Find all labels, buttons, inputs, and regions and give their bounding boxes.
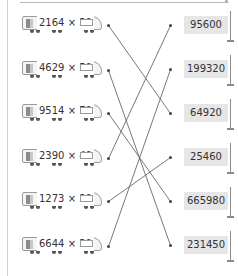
train-wheels-icon [26,118,96,121]
train-wheels-icon [26,75,96,78]
train-window-icon [80,19,93,26]
connection-line [109,158,171,202]
right-connector-dot[interactable] [169,112,172,115]
train-icon: 1273 × 20 [22,192,102,206]
train-card[interactable]: 4629 × 50 [22,61,106,81]
train-window-icon [80,240,93,247]
train-card[interactable]: 1273 × 20 [22,192,106,212]
left-connector-dot[interactable] [107,245,110,248]
train-window-icon [80,195,93,202]
train-icon: 2164 × 30 [22,16,102,30]
connection-line [109,70,171,247]
connection-lines [0,0,238,276]
train-door-icon [26,19,33,28]
train-card[interactable]: 2390 × 40 [22,149,106,169]
train-door-icon [26,64,33,73]
train-wheels-icon [26,30,96,33]
left-connector-dot[interactable] [107,24,110,27]
sign-pole-icon [230,55,231,85]
sign-pole-base-icon [227,84,234,86]
left-connector-dot[interactable] [107,157,110,160]
connection-line [109,114,171,202]
train-window-icon [80,64,93,71]
sign-pole-base-icon [227,128,234,130]
sign-pole-icon [230,11,231,41]
sign-pole-base-icon [227,260,234,262]
train-card[interactable]: 9514 × 70 [22,104,106,124]
right-connector-dot[interactable] [169,200,172,203]
left-connector-dot[interactable] [107,69,110,72]
connection-line [109,26,171,159]
train-icon: 2390 × 40 [22,149,102,163]
train-window-icon [80,107,93,114]
sign-pole-base-icon [227,40,234,42]
answer-box[interactable]: 25460 [184,148,228,166]
right-connector-dot[interactable] [169,244,172,247]
answer-box[interactable]: 64920 [184,104,228,122]
connection-line [109,71,171,246]
sign-pole-base-icon [227,172,234,174]
train-door-icon [26,107,33,116]
answer-box[interactable]: 95600 [184,16,228,34]
train-door-icon [26,240,33,249]
train-icon: 6644 × 30 [22,237,102,251]
connection-line [109,26,171,114]
train-window-icon [80,152,93,159]
frame-top-border [20,0,228,3]
left-connector-dot[interactable] [107,112,110,115]
train-door-icon [26,152,33,161]
train-wheels-icon [26,163,96,166]
answer-box[interactable]: 199320 [184,60,228,78]
answer-box[interactable]: 231450 [184,236,228,254]
sign-pole-icon [230,143,231,173]
right-connector-dot[interactable] [169,24,172,27]
sign-pole-icon [230,187,231,217]
left-connector-dot[interactable] [107,200,110,203]
sign-pole-icon [230,99,231,129]
train-card[interactable]: 2164 × 30 [22,16,106,36]
train-icon: 4629 × 50 [22,61,102,75]
frame-left-border [7,0,8,276]
train-wheels-icon [26,206,96,209]
train-door-icon [26,195,33,204]
sign-pole-icon [230,231,231,261]
train-wheels-icon [26,251,96,254]
sign-pole-base-icon [227,216,234,218]
right-connector-dot[interactable] [169,156,172,159]
frame-corner [225,0,228,3]
right-connector-dot[interactable] [169,68,172,71]
train-card[interactable]: 6644 × 30 [22,237,106,257]
answer-box[interactable]: 665980 [184,192,228,210]
train-icon: 9514 × 70 [22,104,102,118]
